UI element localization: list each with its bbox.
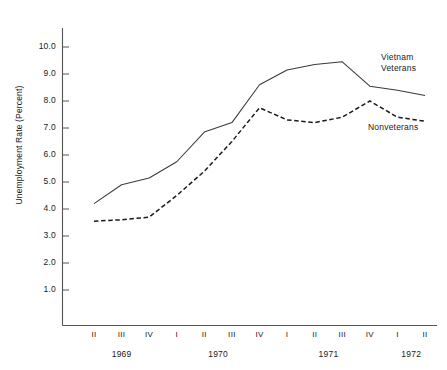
chart-figure: Unemployment Rate (Percent) 1.02.03.04.0… <box>0 0 447 370</box>
y-tick-label: 5.0 <box>30 176 56 186</box>
x-tick-label-quarter: III <box>109 330 135 339</box>
series-label-line: Vietnam <box>381 52 416 63</box>
x-tick-label-quarter: IV <box>357 330 383 339</box>
x-axis-year-label: 1971 <box>308 349 348 359</box>
x-tick-label-quarter: II <box>412 330 438 339</box>
x-tick-label-quarter: II <box>302 330 328 339</box>
x-tick-label-quarter: I <box>274 330 300 339</box>
series-label-line: Nonveterans <box>368 122 418 133</box>
y-tick-label: 2.0 <box>30 257 56 267</box>
x-tick-label-quarter: II <box>81 330 107 339</box>
x-tick-label-quarter: IV <box>136 330 162 339</box>
y-tick-label: 7.0 <box>30 122 56 132</box>
x-axis-year-label: 1972 <box>391 349 431 359</box>
x-tick-label-quarter: II <box>191 330 217 339</box>
y-tick-label: 6.0 <box>30 149 56 159</box>
x-axis-year-label: 1970 <box>198 349 238 359</box>
y-axis-ticks <box>63 47 70 290</box>
y-tick-label: 4.0 <box>30 203 56 213</box>
x-tick-label-quarter: III <box>219 330 245 339</box>
series-label-line: Veterans <box>381 63 416 74</box>
x-tick-label-quarter: I <box>164 330 190 339</box>
series-line-nonveterans <box>94 101 425 221</box>
chart-plot-area <box>0 0 447 370</box>
x-tick-label-quarter: I <box>384 330 410 339</box>
x-tick-label-quarter: III <box>329 330 355 339</box>
y-tick-label: 1.0 <box>30 284 56 294</box>
series-paths <box>94 62 425 221</box>
y-tick-label: 9.0 <box>30 68 56 78</box>
x-tick-label-quarter: IV <box>247 330 273 339</box>
y-tick-label: 8.0 <box>30 95 56 105</box>
y-tick-label: 10.0 <box>30 41 56 51</box>
x-axis-year-label: 1969 <box>102 349 142 359</box>
y-tick-label: 3.0 <box>30 230 56 240</box>
series-label-nonveterans: Nonveterans <box>368 122 418 133</box>
series-label-vietnam-veterans: VietnamVeterans <box>381 52 416 74</box>
